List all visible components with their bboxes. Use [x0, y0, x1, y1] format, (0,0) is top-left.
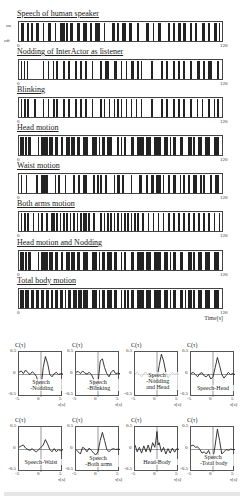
on-interval-bar — [180, 137, 183, 155]
on-interval-bar — [198, 137, 201, 155]
on-interval-bar — [114, 175, 116, 193]
on-interval-bar — [178, 213, 180, 231]
on-interval-bar — [214, 290, 219, 308]
pair-label: Speech -Nodding and Head — [135, 372, 179, 390]
x-tick: -5 — [15, 396, 19, 401]
cross-correlation-plot: Head-Body — [134, 426, 178, 471]
on-interval-bar — [198, 213, 200, 231]
on-interval-bar — [38, 213, 40, 231]
on-interval-bar — [188, 252, 191, 270]
on-interval-bar — [151, 61, 153, 79]
c-tau-axis-label: C(τ) — [187, 342, 197, 348]
on-interval-bar — [83, 137, 88, 155]
cross-correlation-plot: Speech -Blinking — [75, 351, 119, 396]
on-interval-bar — [141, 61, 143, 79]
cross-correlation-plot: Speech-Head — [190, 351, 234, 396]
on-interval-bar — [158, 213, 160, 231]
c-tau-axis-label: C(τ) — [72, 417, 82, 423]
x-tick: 0 — [94, 396, 97, 401]
on-interval-bar — [168, 213, 170, 231]
on-interval-bar — [92, 99, 94, 117]
x-tick: 0 — [37, 396, 40, 401]
on-interval-bar — [193, 252, 195, 270]
on-interval-bar — [203, 213, 205, 231]
on-interval-bar — [127, 290, 129, 308]
on-interval-bar — [65, 175, 67, 193]
on-interval-bar — [137, 252, 144, 270]
tau-axis-label: τ[s] — [174, 477, 181, 482]
on-interval-bar — [126, 99, 128, 117]
on-interval-bar — [55, 175, 57, 193]
on-interval-bar — [38, 252, 40, 270]
tau-axis-label: τ[s] — [58, 477, 65, 482]
on-interval-bar — [163, 213, 165, 231]
on-interval-bar — [190, 61, 192, 79]
on-interval-bar — [210, 175, 212, 193]
tau-axis-label: τ[s] — [58, 402, 65, 407]
on-interval-bar — [25, 252, 28, 270]
on-interval-bar — [217, 99, 219, 117]
on-interval-bar — [71, 137, 74, 155]
on-interval-bar — [190, 23, 192, 41]
on-interval-bar — [137, 61, 139, 79]
on-interval-bar — [49, 137, 52, 155]
on-interval-bar — [21, 61, 22, 79]
on-interval-bar — [77, 137, 80, 155]
timeline-title: Both arms motion — [17, 200, 75, 208]
on-interval-bar — [168, 23, 170, 41]
on-interval-bar — [217, 61, 219, 79]
y-tick-zero: 0 — [13, 370, 16, 375]
y-tick-max: 0.5 — [10, 348, 16, 353]
on-interval-bar — [65, 290, 67, 308]
on-interval-bar — [193, 290, 195, 308]
on-interval-bar — [56, 99, 58, 117]
x-tick: 0 — [153, 471, 156, 476]
on-interval-bar — [63, 99, 65, 117]
on-interval-bar — [75, 61, 77, 79]
timeline-plot — [18, 21, 223, 42]
on-interval-bar — [100, 61, 102, 79]
on-interval-bar — [70, 23, 73, 41]
x-tick: 5 — [175, 471, 178, 476]
x-tick-start: 0 — [17, 310, 20, 315]
timeline-title: Total body motion — [17, 277, 76, 285]
on-interval-bar — [188, 290, 191, 308]
c-tau-axis-label: C(τ) — [72, 342, 82, 348]
on-interval-bar — [208, 61, 211, 79]
on-interval-bar — [188, 213, 190, 231]
on-interval-bar — [104, 99, 106, 117]
on-interval-bar — [73, 213, 75, 231]
cross-correlation-plot: Speech-Waist — [18, 426, 62, 471]
on-interval-bar — [66, 137, 69, 155]
on-interval-bar — [83, 213, 86, 231]
figure-caption — [4, 492, 240, 496]
on-interval-bar — [208, 213, 210, 231]
timeline-title: Nodding of InterActor as listener — [17, 48, 123, 56]
on-interval-bar — [46, 213, 48, 231]
y-tick-zero: 0 — [70, 445, 73, 450]
on-interval-bar — [188, 137, 191, 155]
on-interval-bar — [121, 213, 123, 231]
on-interval-bar — [100, 99, 102, 117]
on-interval-bar — [188, 175, 190, 193]
on-interval-bar — [208, 23, 210, 41]
timeline-plot — [18, 59, 223, 80]
on-interval-bar — [203, 61, 205, 79]
timeline-panel: Head motion0120 — [0, 124, 244, 162]
on-interval-bar — [146, 137, 151, 155]
x-tick: 0 — [153, 396, 156, 401]
y-tick-zero: 0 — [13, 445, 16, 450]
cross-correlation-plot: Speech -Nodding and Head — [134, 351, 178, 396]
on-interval-bar — [219, 213, 221, 231]
on-interval-bar — [68, 99, 70, 117]
timeline-plot — [18, 173, 223, 194]
on-interval-bar — [185, 290, 187, 308]
on-interval-bar — [53, 61, 54, 79]
on-interval-bar — [122, 175, 124, 193]
on-interval-bar — [117, 137, 119, 155]
on-interval-bar — [178, 23, 181, 41]
on-interval-bar — [156, 175, 161, 193]
on-interval-bar — [48, 23, 51, 41]
c-tau-axis-label: C(τ) — [131, 342, 141, 348]
on-interval-bar — [214, 252, 219, 270]
